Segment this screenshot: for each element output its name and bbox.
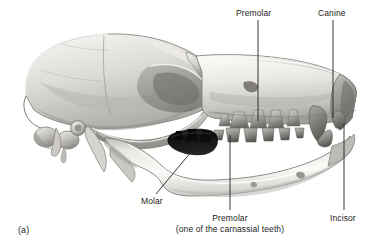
label-incisor: Incisor xyxy=(330,213,356,224)
lower-premolar-1 xyxy=(295,128,304,138)
figure-carnivore-skull: Premolar Canine Molar Premolar (one of t… xyxy=(0,0,372,250)
lower-premolar-3 xyxy=(262,128,274,141)
label-premolar-lower: Premolar xyxy=(166,213,294,224)
lower-premolar-2 xyxy=(279,128,290,140)
lower-molar-1 xyxy=(226,128,240,142)
lower-premolar-4 xyxy=(244,128,257,142)
label-premolar-upper: Premolar xyxy=(236,8,271,19)
label-premolar-lower-group: Premolar (one of the carnassial teeth) xyxy=(166,213,294,235)
external-auditory-meatus xyxy=(75,125,82,132)
carnassial-tooth-group xyxy=(168,129,218,155)
label-premolar-lower-note: (one of the carnassial teeth) xyxy=(166,224,294,235)
label-canine: Canine xyxy=(318,8,346,19)
figure-panel-label: (a) xyxy=(18,225,29,236)
label-molar: Molar xyxy=(141,196,163,207)
